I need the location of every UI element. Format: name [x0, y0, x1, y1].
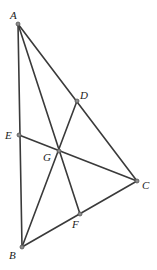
point-f: [78, 212, 82, 216]
label-e: E: [4, 129, 12, 141]
point-g: [57, 149, 61, 153]
point-c: [135, 179, 139, 183]
label-d: D: [79, 89, 88, 101]
label-b: B: [9, 249, 16, 261]
label-f: F: [71, 218, 79, 230]
triangle-medians-diagram: A B C D E F G: [0, 0, 157, 270]
label-a: A: [9, 9, 17, 21]
label-c: C: [142, 179, 150, 191]
label-g: G: [43, 151, 51, 163]
point-a: [16, 22, 20, 26]
point-e: [17, 133, 21, 137]
point-d: [75, 99, 79, 103]
point-b: [20, 245, 24, 249]
